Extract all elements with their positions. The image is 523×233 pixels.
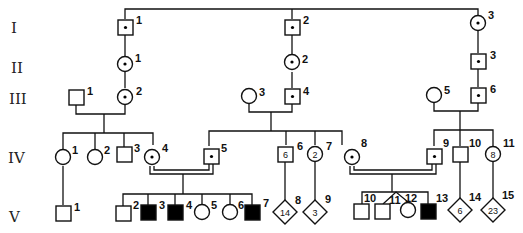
female-unaffected-symbol: [427, 88, 442, 103]
individual-II-1: 1: [118, 52, 142, 72]
generation-label-IV: IV: [8, 149, 26, 167]
carrier-dot-icon: [350, 155, 353, 158]
carrier-dot-icon: [124, 26, 127, 29]
individual-III-2: 2: [118, 85, 143, 105]
individual-V-1: 1: [56, 201, 80, 221]
consanguineous-line-IV-8-IV-9-a: [350, 164, 436, 174]
svg-text:5: 5: [444, 84, 450, 96]
svg-text:6: 6: [238, 199, 244, 211]
svg-text:7: 7: [326, 140, 332, 152]
svg-text:6: 6: [297, 140, 303, 152]
svg-text:12: 12: [405, 192, 417, 204]
pedigree-diagram: I II III IV V: [0, 0, 523, 233]
individual-IV-10: 10: [453, 137, 481, 162]
svg-text:4: 4: [162, 142, 169, 154]
svg-text:6: 6: [490, 83, 496, 95]
svg-text:7: 7: [263, 197, 269, 209]
svg-text:13: 13: [436, 192, 448, 204]
consanguineous-line-IV-4-IV-5-a: [150, 164, 213, 174]
male-unaffected-symbol: [69, 90, 84, 105]
individual-IV-2: 2: [88, 144, 111, 165]
female-unaffected-symbol: [88, 150, 103, 165]
generation-label-V: V: [8, 208, 21, 226]
male-unaffected-symbol: [117, 147, 132, 162]
svg-text:2: 2: [302, 53, 308, 65]
individual-IV-3: 3: [117, 142, 140, 162]
svg-text:10: 10: [364, 192, 376, 204]
svg-text:3: 3: [488, 9, 494, 21]
svg-text:15: 15: [502, 189, 514, 201]
generation-label-I: I: [11, 19, 17, 37]
svg-text:8: 8: [295, 194, 301, 206]
generation-label-III: III: [9, 90, 27, 108]
group-count: 6: [457, 206, 462, 216]
carrier-dot-icon: [477, 60, 480, 63]
svg-text:1: 1: [136, 14, 142, 26]
male-unaffected-symbol: [56, 206, 71, 221]
svg-text:9: 9: [325, 193, 331, 205]
individual-IV-8: 8: [345, 137, 368, 165]
individual-IV-9: 9: [427, 137, 449, 164]
group-count: 2: [312, 150, 317, 160]
group-count: 14: [280, 208, 290, 218]
marriage-line-III-5-III-6: [434, 103, 478, 111]
individual-IV-7: 2 7: [308, 140, 333, 162]
consanguineous-line-IV-8-IV-9-b: [354, 164, 432, 170]
individual-V-13: 13: [421, 192, 448, 219]
svg-text:9: 9: [443, 137, 449, 149]
individual-III-4: 4: [285, 85, 310, 104]
svg-text:4: 4: [186, 199, 193, 211]
male-affected-symbol: [141, 205, 156, 220]
individual-II-3: 3: [471, 49, 496, 69]
svg-text:3: 3: [490, 49, 496, 61]
individual-V-14: 6 14: [448, 191, 482, 222]
male-affected-symbol: [245, 205, 260, 220]
individual-IV-11: 8 11: [486, 137, 515, 162]
group-count: 8: [490, 150, 495, 160]
male-affected-symbol: [421, 204, 436, 219]
individual-V-3: 3: [141, 199, 165, 220]
individual-IV-1: 1: [56, 144, 79, 165]
individual-V-5: 5: [195, 199, 218, 220]
male-unaffected-symbol: [116, 206, 131, 221]
svg-text:3: 3: [134, 142, 140, 154]
individual-V-6: 6: [223, 199, 245, 220]
sibship-line-I: [125, 9, 478, 19]
carrier-dot-icon: [477, 94, 480, 97]
svg-text:11: 11: [389, 194, 401, 206]
individual-III-3: 3: [242, 86, 266, 104]
svg-text:5: 5: [221, 142, 227, 154]
marriage-line-III-3-III-4: [249, 104, 292, 112]
female-unaffected-symbol: [242, 89, 257, 104]
svg-text:3: 3: [259, 86, 265, 98]
male-twin-symbol: [375, 204, 390, 219]
individual-II-2: 2: [285, 53, 309, 70]
individual-I-1: 1: [118, 14, 142, 35]
generation-label-II: II: [11, 59, 23, 77]
individual-IV-6: 6 6: [278, 140, 303, 162]
carrier-dot-icon: [123, 62, 126, 65]
individual-III-5: 5: [427, 84, 451, 103]
female-unaffected-symbol: [56, 150, 71, 165]
individual-V-9: 3 9: [303, 193, 331, 224]
carrier-dot-icon: [476, 21, 479, 24]
svg-text:5: 5: [211, 199, 217, 211]
individual-V-11: 11: [375, 194, 401, 219]
svg-text:1: 1: [135, 52, 141, 64]
svg-text:11: 11: [503, 137, 515, 149]
svg-text:1: 1: [74, 201, 80, 213]
pedigree-lines: [63, 9, 493, 206]
svg-text:10: 10: [469, 137, 481, 149]
svg-text:3: 3: [159, 199, 165, 211]
individual-V-10: 10: [354, 192, 376, 219]
individual-V-4: 4: [168, 199, 193, 220]
sibship-line-IV-middle: [209, 131, 342, 146]
female-twin-symbol: [401, 203, 416, 218]
individual-V-2: 2: [116, 199, 139, 221]
group-count: 3: [312, 208, 317, 218]
carrier-dot-icon: [291, 26, 294, 29]
individual-III-6: 6: [471, 83, 496, 103]
male-affected-symbol: [168, 205, 183, 220]
individual-V-15: 23 15: [481, 189, 514, 222]
group-count: 23: [488, 206, 498, 216]
